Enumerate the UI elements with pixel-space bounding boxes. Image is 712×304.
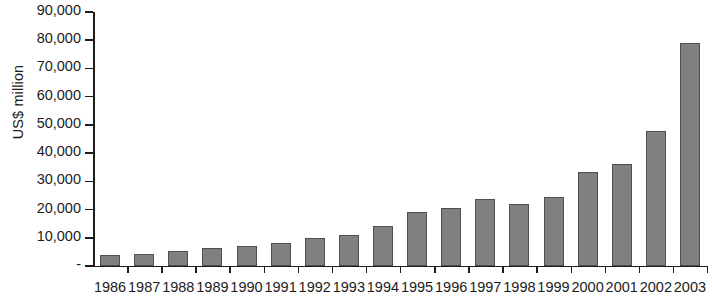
y-tick-mark	[85, 68, 93, 70]
x-tick-mark	[673, 266, 674, 273]
x-tick-label: 1986	[93, 279, 127, 295]
y-tick-mark	[85, 265, 93, 267]
bar	[271, 243, 291, 266]
bar	[544, 197, 564, 266]
x-tick-mark	[707, 266, 708, 273]
bar	[168, 251, 188, 266]
bar	[407, 212, 427, 266]
bar	[134, 254, 154, 266]
y-tick-mark	[85, 209, 93, 211]
x-tick-label: 1988	[161, 279, 195, 295]
bar	[646, 131, 666, 266]
bar	[612, 164, 632, 266]
y-tick-label: -	[76, 256, 81, 272]
y-tick-label: 10,000	[37, 228, 81, 244]
x-tick-label: 1989	[195, 279, 229, 295]
y-tick-mark	[85, 96, 93, 98]
x-tick-mark	[605, 266, 606, 273]
x-tick-mark	[161, 266, 162, 273]
bar	[305, 238, 325, 266]
plot-area	[93, 12, 707, 266]
y-tick-label: 40,000	[37, 143, 81, 159]
bar	[680, 43, 700, 266]
x-tick-mark	[571, 266, 572, 273]
x-tick-mark	[639, 266, 640, 273]
y-tick-mark	[85, 11, 93, 13]
bar	[237, 246, 257, 266]
bar	[475, 199, 495, 266]
bar	[339, 235, 359, 266]
y-tick-label: 60,000	[37, 87, 81, 103]
y-tick-label: 90,000	[37, 2, 81, 18]
y-tick-label: 50,000	[37, 115, 81, 131]
y-tick-label: 70,000	[37, 58, 81, 74]
bar	[509, 204, 529, 266]
y-tick-mark	[85, 124, 93, 126]
bar	[373, 226, 393, 266]
y-tick-mark	[85, 181, 93, 183]
x-tick-mark	[536, 266, 537, 273]
x-tick-mark	[229, 266, 230, 273]
x-tick-label: 2001	[605, 279, 639, 295]
x-tick-mark	[366, 266, 367, 273]
x-tick-label: 2000	[571, 279, 605, 295]
x-tick-label: 1996	[434, 279, 468, 295]
x-tick-label: 1998	[502, 279, 536, 295]
x-tick-mark	[195, 266, 196, 273]
y-tick-mark	[85, 39, 93, 41]
x-tick-mark	[332, 266, 333, 273]
x-tick-label: 1987	[127, 279, 161, 295]
x-tick-mark	[468, 266, 469, 273]
x-tick-label: 1993	[332, 279, 366, 295]
x-tick-label: 1997	[468, 279, 502, 295]
x-tick-mark	[298, 266, 299, 273]
bar-chart: US$ million -10,00020,00030,00040,00050,…	[0, 0, 712, 304]
x-tick-mark	[127, 266, 128, 273]
bar	[100, 255, 120, 266]
bar	[441, 208, 461, 266]
bar	[202, 248, 222, 266]
y-tick-label: 80,000	[37, 30, 81, 46]
x-tick-label: 2002	[639, 279, 673, 295]
x-tick-label: 1999	[536, 279, 570, 295]
x-tick-label: 1992	[298, 279, 332, 295]
x-tick-label: 2003	[673, 279, 707, 295]
x-tick-mark	[434, 266, 435, 273]
x-tick-label: 1995	[400, 279, 434, 295]
x-tick-mark	[400, 266, 401, 273]
y-axis-title: US$ million	[10, 42, 30, 162]
x-tick-label: 1994	[366, 279, 400, 295]
x-tick-mark	[502, 266, 503, 273]
x-tick-label: 1991	[264, 279, 298, 295]
y-tick-mark	[85, 152, 93, 154]
y-tick-label: 30,000	[37, 171, 81, 187]
y-tick-mark	[85, 237, 93, 239]
x-tick-mark	[264, 266, 265, 273]
y-tick-label: 20,000	[37, 200, 81, 216]
x-tick-label: 1990	[229, 279, 263, 295]
bar	[578, 172, 598, 266]
